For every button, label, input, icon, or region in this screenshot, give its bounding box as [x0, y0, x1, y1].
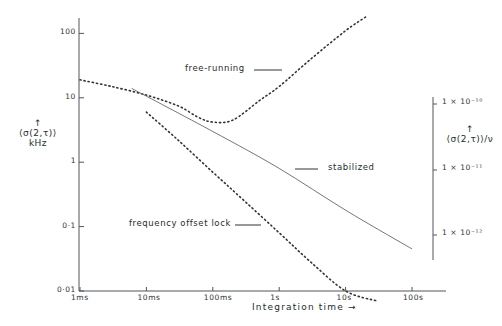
y-tick-label: 1	[71, 156, 76, 165]
right-tick-label: 1 × 10⁻¹¹	[442, 163, 483, 172]
x-tick-label: 1ms	[71, 293, 89, 302]
x-tick-label: 100ms	[204, 293, 233, 302]
right-axis-arrow-icon: ↑	[438, 124, 502, 134]
x-axis-label-text: Integration time	[252, 302, 344, 312]
y-axis-label-right: ↑ ⟨σ(2,τ)⟩/ν	[438, 124, 502, 144]
x-ticks	[80, 287, 412, 291]
series-lines	[80, 17, 412, 301]
x-tick-label: 10s	[337, 293, 352, 302]
right-tick-label: 1 × 10⁻¹²	[442, 228, 483, 237]
annotation-stabilized: stabilized	[328, 162, 375, 172]
x-tick-label: 100s	[403, 293, 424, 302]
y-axis-label-unit: kHz	[10, 138, 66, 148]
annotation-free-running: free-running	[185, 63, 245, 73]
axes	[79, 18, 446, 291]
x-axis-label: Integration time →	[252, 302, 357, 312]
annotation-frequency-offset-lock: frequency offset lock	[129, 218, 231, 228]
y-axis-label-symbol: ⟨σ(2,τ)⟩	[10, 128, 66, 138]
y-tick-label: 100	[60, 27, 76, 36]
x-axis-arrow-icon: →	[348, 302, 357, 312]
y-tick-label: 10	[65, 92, 76, 101]
right-ticks	[433, 104, 437, 235]
right-axis-label-symbol: ⟨σ(2,τ)⟩/ν	[438, 134, 502, 144]
right-tick-label: 1 × 10⁻¹⁰	[442, 97, 483, 106]
y-axis-arrow-icon: ↑	[10, 118, 66, 128]
y-axis-label-left: ↑ ⟨σ(2,τ)⟩ kHz	[10, 118, 66, 148]
y-ticks	[79, 33, 84, 291]
x-tick-label: 1s	[270, 293, 280, 302]
y-tick-label: 0·1	[62, 221, 76, 230]
frequency-offset-lock-curve	[146, 112, 377, 301]
annotation-leader-lines	[235, 70, 318, 225]
x-tick-label: 10ms	[137, 293, 160, 302]
